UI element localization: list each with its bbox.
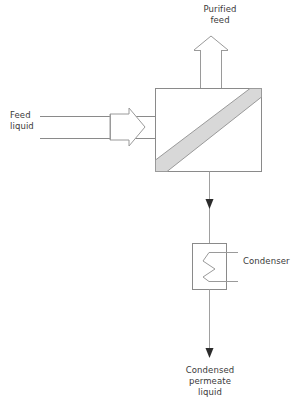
- label-feed-liquid: Feed liquid: [10, 110, 70, 132]
- process-flow-diagram: Purified feed Feed liquid Condenser Cond…: [0, 0, 301, 410]
- label-condenser: Condenser: [243, 256, 301, 267]
- flowsheet-canvas: [0, 0, 301, 410]
- condenser-box: [193, 244, 227, 290]
- purified-feed-arrowhead-icon: [194, 36, 228, 50]
- permeate-vapour-arrowhead-icon: [206, 199, 214, 209]
- label-purified-feed: Purified feed: [180, 4, 260, 26]
- label-condensed-permeate-liquid: Condensed permeate liquid: [165, 365, 255, 398]
- condensed-permeate-arrowhead-icon: [206, 348, 214, 358]
- feed-pump-arrow-icon: [110, 108, 145, 146]
